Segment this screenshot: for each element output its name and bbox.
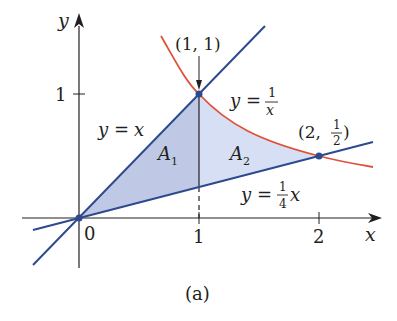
point-label-1-1: (1, 1) (175, 34, 221, 54)
svg-text:y: y (229, 90, 241, 111)
point-2-half (316, 153, 323, 160)
svg-text:1: 1 (268, 85, 276, 100)
svg-text:2: 2 (333, 134, 341, 148)
svg-text:): ) (343, 122, 350, 142)
x-tick-label-2: 2 (313, 226, 324, 247)
figure-caption: (a) (185, 283, 210, 304)
svg-text:x: x (290, 184, 300, 205)
label-y-eq-x: y = x (97, 119, 144, 140)
x-tick-label-1: 1 (193, 226, 204, 247)
y-axis-arrow-icon (74, 13, 84, 28)
y-axis-label: y (57, 9, 69, 31)
area-between-curves-figure: y x 0 1 2 1 (1, 1) (2, 1 2 ) y = x y = 1… (0, 0, 397, 321)
label-y-eq-quarter-x: y = 1 4 x (240, 180, 300, 211)
svg-text:1: 1 (279, 180, 287, 194)
svg-text:1: 1 (171, 155, 178, 168)
svg-text:4: 4 (279, 197, 287, 211)
point-1-1 (196, 91, 203, 98)
svg-text:2: 2 (243, 155, 250, 168)
svg-text:(2,: (2, (298, 122, 321, 142)
svg-text:x: x (266, 102, 274, 118)
svg-text:y: y (240, 184, 252, 205)
svg-text:A: A (228, 143, 243, 164)
svg-text:=: = (257, 184, 272, 205)
label-y-eq-1-over-x: y = 1 x (229, 85, 278, 118)
svg-text:=: = (114, 119, 129, 140)
svg-text:1: 1 (333, 118, 341, 132)
svg-text:A: A (156, 143, 171, 164)
x-axis-label: x (365, 223, 376, 245)
pointer-arrow-icon (196, 80, 202, 90)
point-origin (76, 215, 83, 222)
svg-text:y: y (97, 119, 109, 140)
y-tick-label-1: 1 (55, 84, 66, 105)
origin-label: 0 (84, 223, 95, 244)
point-label-2-half: (2, 1 2 ) (298, 118, 350, 148)
diagram-canvas: y x 0 1 2 1 (1, 1) (2, 1 2 ) y = x y = 1… (0, 0, 397, 321)
svg-text:=: = (246, 90, 261, 111)
svg-text:x: x (134, 119, 144, 140)
